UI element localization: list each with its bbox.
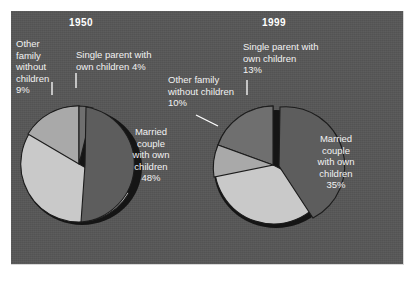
label-1950-other-family: Other family without children 9% — [16, 38, 78, 96]
label-1950-single-parent: Single parent with own children 4% — [76, 49, 180, 72]
label-1999-married: Married couple with own children 35% — [305, 133, 367, 191]
label-1999-single-parent: Single parent with own children 13% — [243, 41, 345, 76]
chart-title-1950: 1950 — [69, 17, 93, 28]
chart-title-1999: 1999 — [262, 17, 286, 28]
figure-stage: 1950 Other family without children 9% Si… — [0, 0, 413, 286]
label-1999-other-family: Other family without children 10% — [168, 74, 254, 109]
label-1950-married: Married couple with own children 48% — [118, 126, 184, 184]
